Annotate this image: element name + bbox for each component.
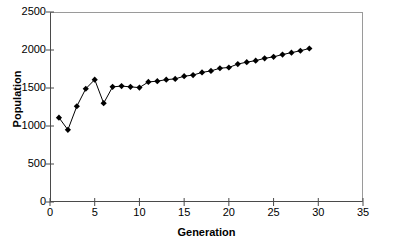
x-tick-label: 15 [164, 206, 204, 218]
x-tick-label: 30 [298, 206, 338, 218]
x-tick-label: 10 [119, 206, 159, 218]
x-axis-label-group: 05101520253035 [0, 0, 394, 249]
x-tick-label: 25 [254, 206, 294, 218]
x-axis-title: Generation [50, 226, 363, 238]
x-tick-label: 0 [30, 206, 70, 218]
x-tick-label: 5 [75, 206, 115, 218]
population-generation-chart: 25002000150010005000 05101520253035 Gene… [0, 0, 394, 249]
x-tick-label: 35 [343, 206, 383, 218]
x-tick-label: 20 [209, 206, 249, 218]
y-axis-title: Population [11, 49, 23, 149]
